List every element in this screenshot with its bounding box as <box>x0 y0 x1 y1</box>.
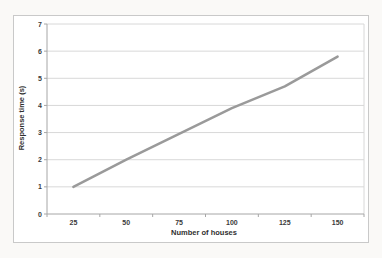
x-tick-label: 100 <box>212 218 252 227</box>
y-tick-label: 2 <box>14 155 42 164</box>
x-tick-label: 150 <box>318 218 358 227</box>
y-tick-label: 7 <box>14 20 42 29</box>
x-tick-label: 125 <box>265 218 305 227</box>
line-chart-plot <box>14 16 368 242</box>
y-tick-label: 1 <box>14 182 42 191</box>
x-tick-label: 25 <box>53 218 93 227</box>
y-tick-label: 5 <box>14 74 42 83</box>
x-tick-label: 75 <box>159 218 199 227</box>
chart-container: 01234567 255075100125150 Response time (… <box>13 15 369 243</box>
y-tick-label: 0 <box>14 210 42 219</box>
y-tick-label: 6 <box>14 47 42 56</box>
series-line <box>73 57 337 187</box>
x-axis-title: Number of houses <box>124 228 284 237</box>
y-axis-title: Response time (s) <box>17 86 26 151</box>
x-tick-label: 50 <box>106 218 146 227</box>
